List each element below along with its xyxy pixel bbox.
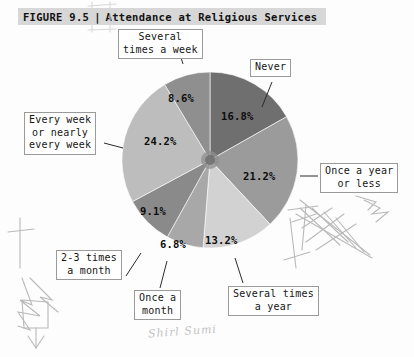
crane-sketch-hook [364,200,388,222]
pie-center-dot [205,155,215,165]
callout-line-1: Never [255,61,286,74]
leader-several-times-year [235,258,243,283]
callout-several-times-a-year[interactable]: Several times a year [228,286,319,316]
callout-line-3: every week [29,139,91,152]
crane-sketch-mast [302,205,306,250]
pct-never: 16.8% [221,110,254,122]
church-sketch-left [18,278,40,330]
callout-line-1: Several times [233,288,314,301]
callout-line-2: month [139,305,176,318]
callout-line-1: Several [123,31,198,44]
callout-2-3-times-a-month[interactable]: 2-3 times a month [56,250,122,280]
callout-every-week[interactable]: Every week or nearly every week [24,112,96,155]
callout-line-2: a month [61,265,117,278]
callout-never[interactable]: Never [250,59,291,77]
callout-line-1: 2-3 times [61,252,117,265]
leader-once-a-month [160,261,167,288]
church-sketch-right [30,278,58,312]
pie-chart-svg [120,70,300,250]
church-sketch-body [22,300,48,328]
church-sketch-base [28,336,44,348]
callout-line-2: a year [233,301,314,314]
crane-sketch-boom-bottom [296,214,372,258]
pie-chart: 24.2% 8.6% 16.8% 21.2% 13.2% 9.1% 6.8% [120,70,300,250]
handwriting-annotation: Shirl Sumi [148,324,218,341]
crane-sketch-lattice [300,208,364,252]
callout-line-1: Once a [139,292,176,305]
callout-once-a-year-or-less[interactable]: Once a year or less [320,163,398,193]
callout-line-2: or less [325,178,393,191]
title-separator: | [94,11,100,23]
callout-line-2: times a week [123,44,198,57]
page-title: Attendance at Religious Services [106,11,318,23]
crane-sketch-top-arm [356,196,376,210]
figure-number: FIGURE 9.5 [23,11,89,23]
leader-2-3-times-month [126,253,141,276]
callout-line-1: Every week [29,114,91,127]
pct-several-times-year: 13.2% [205,234,238,246]
cross-sketch-horizontal [8,229,34,232]
callout-several-times-a-week[interactable]: Several times a week [118,29,203,59]
callout-line-1: Once a year [325,165,393,178]
pct-2-3-times-a-month: 9.1% [140,205,166,217]
callout-line-2: or nearly [29,127,91,140]
crane-sketch-boom-top [300,200,370,255]
figure-page: FIGURE 9.5 | Attendance at Religious Ser… [0,0,414,357]
callout-once-a-month[interactable]: Once a month [134,290,181,320]
pct-once-a-year-or-less: 21.2% [243,170,276,182]
pct-several-times-week: 8.6% [168,92,194,104]
figure-title-bar: FIGURE 9.5 | Attendance at Religious Ser… [18,8,326,25]
pct-every-week: 24.2% [144,135,177,147]
pct-once-a-month: 6.8% [160,238,186,250]
